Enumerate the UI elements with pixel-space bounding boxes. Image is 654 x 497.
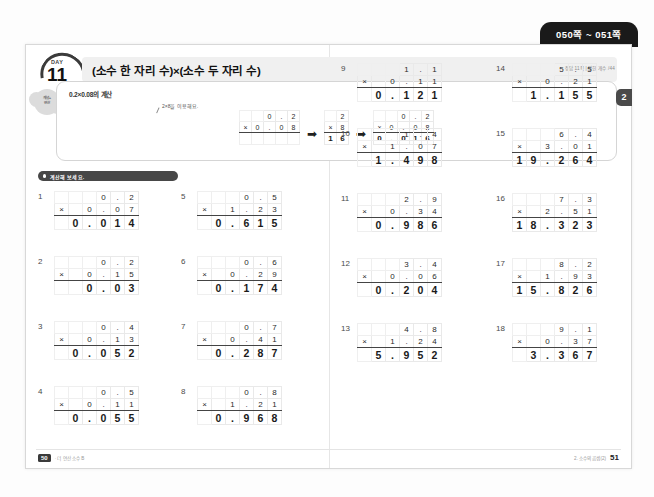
digit-cell: 5: [111, 411, 125, 425]
empty-cell: [372, 259, 386, 271]
problem-number: 16: [496, 193, 507, 203]
problem-item: 10.2×0.070.014: [38, 191, 139, 230]
digit-cell: 1: [414, 76, 428, 88]
problem-number: 6: [181, 256, 192, 266]
digit-cell: 9: [527, 153, 541, 167]
digit-cell: 5: [569, 206, 583, 218]
empty-cell: [527, 64, 541, 76]
digit-cell: 0: [69, 411, 83, 425]
digit-cell: 5: [125, 411, 139, 425]
calc-grid: 0.5×1.230.615: [197, 191, 282, 230]
multiply-sign: ×: [513, 336, 527, 348]
empty-cell: [69, 387, 83, 399]
digit-cell: 5: [583, 64, 597, 76]
decimal-point: .: [97, 269, 111, 281]
ex2-top: 2: [337, 111, 349, 122]
decimal-point: .: [569, 64, 583, 76]
multiply-sign: ×: [513, 271, 527, 283]
multiply-sign: [513, 259, 527, 271]
ex1-top-dec: 2: [287, 111, 299, 122]
digit-cell: 0: [414, 271, 428, 283]
empty-cell: [212, 387, 226, 399]
digit-cell: 0: [386, 206, 400, 218]
digit-cell: 1: [226, 399, 240, 411]
multiply-sign: [358, 324, 372, 336]
problem-item: 101.4×1.071.498: [341, 128, 442, 167]
decimal-point: .: [414, 194, 428, 206]
empty-cell: [83, 192, 97, 204]
empty-cell: [372, 206, 386, 218]
digit-cell: 2: [428, 348, 442, 362]
problem-item: 123.4×0.060.204: [341, 258, 442, 297]
multiply-sign: [198, 192, 212, 204]
decimal-point: .: [414, 259, 428, 271]
digit-cell: 1: [513, 153, 527, 167]
digit-cell: 0: [83, 334, 97, 346]
problem-number: 7: [181, 321, 192, 331]
digit-cell: 1: [268, 399, 282, 411]
example-title: 0.2×0.08의 계산: [69, 89, 112, 99]
multiply-sign: ×: [358, 206, 372, 218]
instruction-label: 계산해 보세요.: [50, 173, 84, 180]
digit-cell: 0: [240, 192, 254, 204]
digit-cell: 7: [268, 322, 282, 334]
digit-cell: 7: [583, 348, 597, 362]
digit-cell: 3: [125, 281, 139, 295]
calc-grid: 0.2×0.150.03: [54, 256, 139, 295]
digit-cell: 1: [428, 88, 442, 102]
decimal-point: .: [254, 387, 268, 399]
digit-cell: 8: [268, 411, 282, 425]
digit-cell: 8: [555, 283, 569, 297]
right-footer-text: 2. 소수의 곱셈(2): [574, 455, 606, 461]
digit-cell: 0: [372, 88, 386, 102]
empty-cell: [386, 324, 400, 336]
digit-cell: 5: [555, 64, 569, 76]
digit-cell: 0: [69, 346, 83, 360]
empty-cell: [386, 259, 400, 271]
digit-cell: 7: [125, 204, 139, 216]
digit-cell: 4: [268, 281, 282, 295]
problem-number: 9: [341, 63, 352, 73]
digit-cell: 6: [569, 348, 583, 362]
digit-cell: 1: [111, 334, 125, 346]
empty-cell: [83, 257, 97, 269]
digit-cell: 2: [400, 283, 414, 297]
digit-cell: 4: [428, 259, 442, 271]
calc-grid: 0.7×0.410.287: [197, 321, 282, 360]
digit-cell: 5: [268, 216, 282, 230]
empty-cell: [513, 88, 527, 102]
empty-cell: [69, 322, 83, 334]
digit-cell: 5: [372, 348, 386, 362]
digit-cell: 8: [527, 218, 541, 232]
empty-cell: [372, 129, 386, 141]
calc-grid: 0.6×0.290.174: [197, 256, 282, 295]
calc-grid: 0.5×0.110.055: [54, 386, 139, 425]
calc-grid: 2.9×0.340.986: [357, 193, 442, 232]
digit-cell: 2: [541, 206, 555, 218]
empty-cell: [541, 64, 555, 76]
digit-cell: 2: [555, 153, 569, 167]
digit-cell: 9: [555, 324, 569, 336]
right-page-number: 51: [610, 453, 619, 462]
footer-divider: [36, 449, 621, 450]
digit-cell: 7: [555, 194, 569, 206]
empty-cell: [372, 324, 386, 336]
decimal-point: .: [240, 204, 254, 216]
digit-cell: 6: [254, 411, 268, 425]
problem-number: 3: [38, 321, 49, 331]
calc-grid: 7.3×2.5118.323: [512, 193, 597, 232]
digit-cell: 5: [125, 387, 139, 399]
multiply-sign: ×: [198, 269, 212, 281]
digit-cell: 2: [400, 194, 414, 206]
digit-cell: 0: [386, 271, 400, 283]
digit-cell: 0: [226, 334, 240, 346]
arrow-icon: ➡: [307, 128, 317, 140]
problem-number: 18: [496, 323, 507, 333]
digit-cell: 8: [268, 387, 282, 399]
digit-cell: 1: [254, 216, 268, 230]
problem-item: 91.1×0.110.121: [341, 63, 442, 102]
decimal-point: .: [254, 192, 268, 204]
decimal-point: .: [541, 153, 555, 167]
problem-item: 189.1×0.373.367: [496, 323, 597, 362]
multiply-sign: ×: [198, 399, 212, 411]
